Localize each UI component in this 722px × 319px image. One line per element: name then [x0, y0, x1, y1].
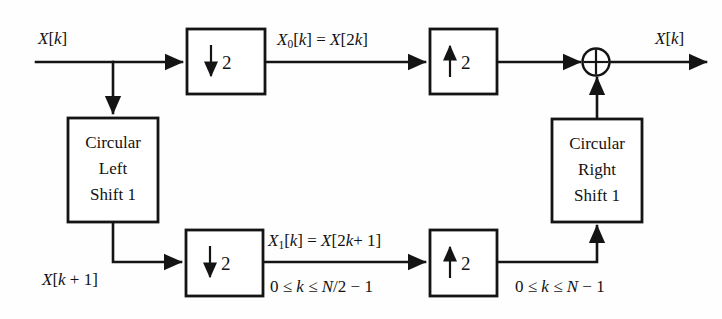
output-signal-label: X[k]: [654, 29, 684, 48]
circular-left-shift-line-2: Left: [99, 159, 128, 178]
input-signal-label: X[k]: [37, 29, 67, 48]
circular-right-shift-block[interactable]: Circular Right Shift 1: [552, 119, 642, 222]
decimator-top-factor: 2: [222, 52, 232, 73]
decimator-bottom-factor: 2: [221, 253, 231, 274]
output-range-label: 0 ≤ k ≤ N − 1: [515, 277, 605, 296]
bottom-path-label: X1[k] = X[2k+ 1]: [267, 231, 381, 251]
circular-right-shift-line-1: Circular: [569, 134, 625, 153]
adder[interactable]: [583, 49, 610, 76]
circular-left-shift-block[interactable]: Circular Left Shift 1: [68, 118, 158, 222]
interpolator-bottom-factor: 2: [461, 253, 471, 274]
circular-right-shift-line-3: Shift 1: [574, 186, 620, 205]
circular-left-shift-line-1: Circular: [85, 133, 141, 152]
wire-left-shift-to-bottom-decimator: [113, 222, 181, 262]
block-diagram-canvas: 2 2 2 2 Circular Left Shift 1 Circular R…: [0, 0, 722, 319]
branch-signal-label: X[k + 1]: [41, 270, 98, 289]
signal-flow-diagram: 2 2 2 2 Circular Left Shift 1 Circular R…: [0, 0, 722, 319]
wire-bottom-interpolator-to-right-shift: [497, 226, 597, 262]
decimator-bottom[interactable]: 2: [186, 230, 263, 296]
interpolator-bottom[interactable]: 2: [430, 230, 497, 296]
interpolator-top[interactable]: 2: [430, 29, 497, 94]
top-path-label: X0[k] = X[2k]: [276, 30, 368, 50]
circular-left-shift-line-3: Shift 1: [90, 185, 136, 204]
circular-right-shift-line-2: Right: [578, 160, 616, 179]
decimator-top[interactable]: 2: [187, 29, 265, 94]
interpolator-top-factor: 2: [461, 52, 471, 73]
bottom-range-label: 0 ≤ k ≤ N/2 − 1: [270, 277, 373, 296]
